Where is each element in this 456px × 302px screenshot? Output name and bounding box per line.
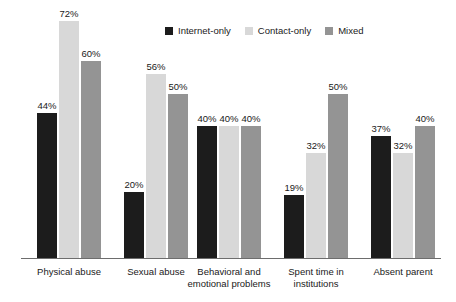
- bar: [37, 113, 57, 258]
- bar: [197, 126, 217, 258]
- bar: [284, 195, 304, 258]
- x-axis-category-label: Physical abuse: [19, 266, 119, 278]
- bar: [146, 74, 166, 258]
- plot-area: 44%72%60%20%56%50%40%40%40%19%32%50%37%3…: [0, 0, 456, 259]
- bar-value-label: 40%: [241, 113, 260, 124]
- bar: [124, 192, 144, 258]
- bar-value-label: 50%: [168, 81, 187, 92]
- bar-value-label: 20%: [124, 179, 143, 190]
- bar-value-label: 56%: [146, 61, 165, 72]
- grouped-bar-chart: Internet-onlyContact-onlyMixed 44%72%60%…: [0, 0, 456, 302]
- bar-value-label: 44%: [37, 100, 56, 111]
- bar: [219, 126, 239, 258]
- bar-value-label: 50%: [328, 81, 347, 92]
- bar: [306, 153, 326, 258]
- bar: [371, 136, 391, 258]
- bar-value-label: 40%: [415, 113, 434, 124]
- bar-value-label: 37%: [371, 123, 390, 134]
- bar-value-label: 72%: [59, 8, 78, 19]
- bar-value-label: 32%: [393, 140, 412, 151]
- bar-value-label: 60%: [81, 48, 100, 59]
- bar: [81, 61, 101, 258]
- bar-value-label: 40%: [219, 113, 238, 124]
- bar: [328, 94, 348, 259]
- bar: [415, 126, 435, 258]
- bar: [168, 94, 188, 259]
- bar-value-label: 40%: [197, 113, 216, 124]
- bar: [393, 153, 413, 258]
- x-axis-category-label: Absent parent: [353, 266, 453, 278]
- x-axis-line: [21, 258, 441, 259]
- x-axis-category-label: Spent time in institutions: [266, 266, 366, 290]
- bar: [59, 21, 79, 258]
- bar-value-label: 32%: [306, 140, 325, 151]
- x-axis-category-label: Behavioral and emotional problems: [179, 266, 279, 290]
- bar-value-label: 19%: [284, 182, 303, 193]
- bar: [241, 126, 261, 258]
